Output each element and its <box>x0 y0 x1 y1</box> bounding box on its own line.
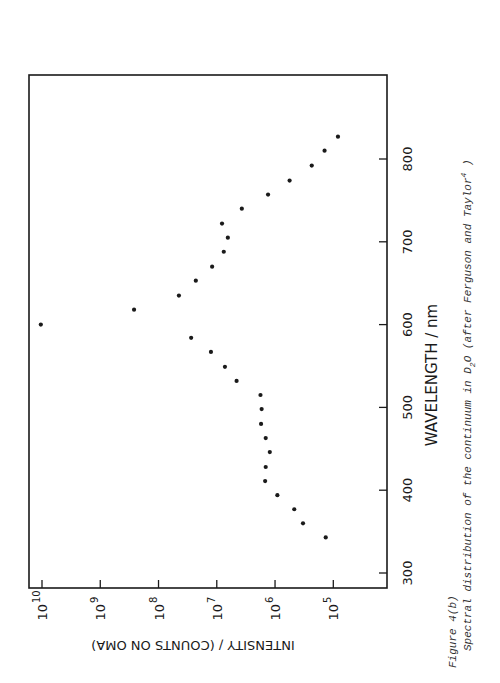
data-point <box>324 535 328 539</box>
intensity-tick-label: 106 <box>264 597 283 621</box>
caption-mid: O (after Ferguson and Taylor <box>462 177 474 362</box>
wavelength-axis-title: WAVELENGTH / nm <box>423 304 441 446</box>
data-point <box>264 436 268 440</box>
svg-text:9: 9 <box>89 597 100 603</box>
wavelength-tick-label: 800 <box>400 147 415 172</box>
data-point <box>234 379 238 383</box>
wavelength-tick-label: 400 <box>400 478 415 503</box>
data-point <box>258 393 262 397</box>
svg-text:10: 10 <box>326 604 341 621</box>
svg-text:10: 10 <box>152 604 167 621</box>
svg-text:7: 7 <box>206 597 217 603</box>
wavelength-tick-label: 600 <box>400 312 415 337</box>
wavelength-tick-label: 500 <box>400 395 415 420</box>
plot-frame <box>29 75 387 588</box>
intensity-tick-label: 107 <box>206 597 225 621</box>
intensity-tick-label: 1010 <box>31 590 50 620</box>
data-point <box>210 265 214 269</box>
data-point <box>132 308 136 312</box>
svg-text:8: 8 <box>148 597 159 603</box>
caption-prefix: Spectral distribution of the continuum i… <box>462 367 474 651</box>
data-point <box>39 323 43 327</box>
intensity-axis-ticks: 1010109108107106105 <box>31 580 341 621</box>
data-point <box>194 279 198 283</box>
svg-text:10: 10 <box>31 590 42 603</box>
data-point <box>266 193 270 197</box>
wavelength-tick-label: 300 <box>400 561 415 586</box>
data-point <box>259 422 263 426</box>
wavelength-tick-label: 700 <box>400 229 415 254</box>
data-point <box>322 149 326 153</box>
data-point <box>189 336 193 340</box>
figure-caption: Spectral distribution of the continuum i… <box>459 159 477 651</box>
data-point <box>336 135 340 139</box>
data-points <box>39 135 340 540</box>
data-point <box>301 521 305 525</box>
caption-suffix: ) <box>462 159 474 172</box>
data-point <box>209 350 213 354</box>
data-point <box>292 507 296 511</box>
data-point <box>310 164 314 168</box>
data-point <box>260 407 264 411</box>
data-point <box>222 250 226 254</box>
intensity-tick-label: 105 <box>322 597 341 621</box>
svg-text:6: 6 <box>264 597 275 603</box>
data-point <box>264 465 268 469</box>
intensity-tick-label: 108 <box>148 597 167 621</box>
svg-text:5: 5 <box>322 597 333 603</box>
data-point <box>268 450 272 454</box>
data-point <box>288 178 292 182</box>
svg-text:10: 10 <box>268 604 283 621</box>
data-point <box>220 221 224 225</box>
intensity-tick-label: 109 <box>89 597 108 621</box>
data-point <box>240 207 244 211</box>
svg-text:10: 10 <box>93 604 108 621</box>
wavelength-axis-ticks: 300400500600700800 <box>379 147 415 586</box>
figure-canvas: 300400500600700800 1010109108107106105 W… <box>0 0 500 683</box>
figure-label: Figure 4(b) <box>447 595 459 668</box>
intensity-axis-title: INTENSITY / (COUNTS ON OMA) <box>91 638 295 653</box>
data-point <box>263 479 267 483</box>
data-point <box>226 236 230 240</box>
svg-text:10: 10 <box>210 604 225 621</box>
data-point <box>275 493 279 497</box>
data-point <box>177 294 181 298</box>
data-point <box>223 365 227 369</box>
svg-text:10: 10 <box>35 604 50 621</box>
